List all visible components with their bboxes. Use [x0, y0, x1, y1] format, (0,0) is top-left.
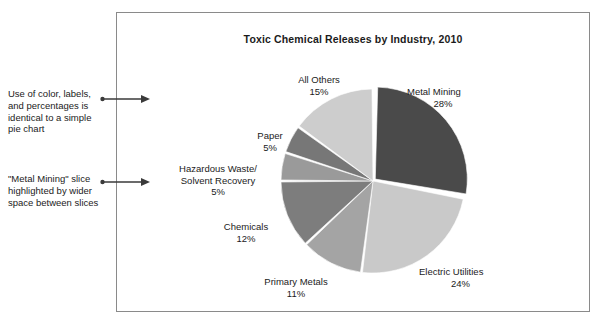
pie-label-chemicals: Chemicals 12%: [215, 221, 277, 244]
annotation-metal-mining-highlight-text: "Metal Mining" slice highlighted by wide…: [8, 173, 100, 208]
pie-label-paper: Paper 5%: [248, 130, 292, 153]
pie-label-hazardous-waste-name-2: Solvent Recovery: [174, 175, 262, 187]
pie-label-primary-metals-name: Primary Metals: [264, 276, 327, 287]
pie-label-chemicals-percent: 12%: [215, 233, 277, 245]
chart-frame: Toxic Chemical Releases by Industry, 201…: [116, 12, 590, 312]
pie-label-paper-name: Paper: [257, 130, 282, 141]
pie-label-metal-mining: Metal Mining 28%: [407, 86, 479, 109]
pie-label-all-others-percent: 15%: [283, 86, 355, 98]
pie-label-hazardous-waste-percent: 5%: [174, 186, 262, 198]
annotation-color-labels-arrow: [100, 94, 150, 104]
chart-title: Toxic Chemical Releases by Industry, 201…: [117, 33, 589, 45]
pie-slice-electric-utilities[interactable]: [363, 181, 464, 273]
pie-label-all-others-name: All Others: [298, 74, 340, 85]
arrow-right-icon: [100, 94, 150, 104]
pie-label-paper-percent: 5%: [248, 142, 292, 154]
arrow-right-icon: [100, 177, 150, 187]
pie-label-all-others: All Others 15%: [283, 74, 355, 97]
pie-label-hazardous-waste: Hazardous Waste/ Solvent Recovery 5%: [174, 163, 262, 198]
annotation-color-labels-text: Use of color, labels, and percentages is…: [8, 88, 100, 135]
pie-chart-svg: [278, 86, 468, 276]
pie-label-primary-metals-percent: 11%: [256, 288, 336, 300]
pie-chart: [278, 86, 468, 276]
pie-label-primary-metals: Primary Metals 11%: [256, 276, 336, 299]
pie-label-electric-utilities-percent: 24%: [419, 278, 502, 290]
pie-label-electric-utilities-name: Electric Utilities: [419, 266, 483, 277]
pie-label-chemicals-name: Chemicals: [224, 221, 268, 232]
annotation-metal-mining-highlight-arrow: [100, 177, 150, 187]
pie-label-metal-mining-name: Metal Mining: [407, 86, 461, 97]
pie-label-electric-utilities: Electric Utilities 24%: [419, 266, 502, 289]
pie-label-hazardous-waste-name-1: Hazardous Waste/: [179, 163, 257, 174]
pie-label-metal-mining-percent: 28%: [407, 98, 479, 110]
